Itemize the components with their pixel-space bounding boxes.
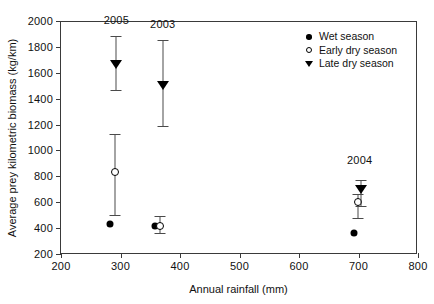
data-point-open-circle: [111, 168, 119, 176]
y-tick-label: 1200: [28, 119, 53, 130]
data-point-filled-circle: [350, 229, 357, 236]
x-tick: [418, 253, 419, 258]
x-tick: [180, 253, 181, 258]
legend-label: Late dry season: [319, 57, 394, 71]
data-point-filled-triangle-down: [157, 81, 169, 90]
filled-triangle-down-icon: [305, 61, 313, 67]
y-tick: [56, 125, 61, 126]
error-bar-cap: [154, 216, 165, 217]
legend-label: Early dry season: [319, 44, 397, 58]
y-tick: [56, 228, 61, 229]
x-tick-label: 600: [290, 261, 309, 272]
y-axis-title: Average prey kilometric biomass (kg/km): [4, 21, 20, 254]
legend-item: Early dry season: [304, 44, 397, 58]
error-bar-cap: [154, 233, 165, 234]
filled-circle-icon: [306, 34, 312, 40]
y-tick-label: 600: [34, 197, 53, 208]
x-tick: [240, 253, 241, 258]
error-bar-cap: [352, 194, 363, 195]
y-tick: [56, 73, 61, 74]
legend-item: Late dry season: [304, 57, 397, 71]
x-tick-label: 500: [230, 261, 249, 272]
y-tick: [56, 21, 61, 22]
y-tick-label: 200: [34, 249, 53, 260]
y-tick-label: 1000: [28, 145, 53, 156]
legend-marker-icon: [304, 47, 314, 53]
y-tick-label: 800: [34, 171, 53, 182]
data-point-filled-triangle-down: [355, 185, 367, 194]
x-tick: [121, 253, 122, 258]
y-tick: [56, 176, 61, 177]
y-tick-label: 1600: [28, 67, 53, 78]
legend-marker-icon: [304, 61, 314, 67]
x-tick-label: 400: [171, 261, 190, 272]
x-tick: [299, 253, 300, 258]
year-annotation: 2003: [150, 18, 175, 30]
legend-marker-icon: [304, 34, 314, 40]
error-bar-cap: [111, 90, 122, 91]
year-annotation: 2005: [104, 14, 129, 26]
error-bar-cap: [110, 215, 121, 216]
error-bar-cap: [111, 36, 122, 37]
x-tick-label: 700: [349, 261, 368, 272]
x-tick-label: 200: [52, 261, 71, 272]
legend: Wet seasonEarly dry seasonLate dry seaso…: [304, 30, 397, 71]
x-tick: [61, 253, 62, 258]
x-tick-label: 300: [111, 261, 130, 272]
y-tick-label: 1800: [28, 41, 53, 52]
x-tick-label: 800: [409, 261, 428, 272]
y-tick: [56, 47, 61, 48]
legend-label: Wet season: [319, 30, 374, 44]
error-bar-cap: [355, 180, 366, 181]
x-axis-title: Annual rainfall (mm): [60, 283, 417, 295]
y-tick: [56, 202, 61, 203]
y-axis-title-text: Average prey kilometric biomass (kg/km): [6, 38, 18, 236]
error-bar-cap: [157, 126, 168, 127]
y-tick-label: 1400: [28, 93, 53, 104]
open-circle-icon: [306, 47, 312, 53]
data-point-filled-circle: [107, 221, 114, 228]
figure-container: Average prey kilometric biomass (kg/km) …: [0, 0, 434, 304]
y-tick-label: 2000: [28, 16, 53, 27]
data-point-filled-triangle-down: [110, 60, 122, 69]
legend-item: Wet season: [304, 30, 397, 44]
error-bar-cap: [157, 40, 168, 41]
y-tick-label: 400: [34, 223, 53, 234]
year-annotation: 2004: [347, 154, 372, 166]
plot-right-rule: [416, 21, 417, 253]
x-axis-title-text: Annual rainfall (mm): [189, 283, 287, 295]
y-tick: [56, 99, 61, 100]
y-tick: [56, 150, 61, 151]
error-bar-cap: [352, 218, 363, 219]
x-tick: [359, 253, 360, 258]
data-point-open-circle: [156, 222, 164, 230]
error-bar-cap: [110, 134, 121, 135]
error-bar-cap: [355, 206, 366, 207]
